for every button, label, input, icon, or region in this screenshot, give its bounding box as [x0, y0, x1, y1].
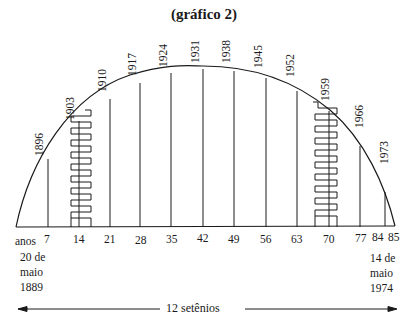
start-date-note: 20 de maio 1889 [20, 250, 45, 295]
end-date-note: 14 de maio 1974 [370, 251, 395, 296]
start-note-line: 20 de [20, 250, 45, 265]
end-note-line: 1974 [370, 281, 395, 296]
zigzag-age-70 [313, 102, 337, 227]
tick-label: 77 [355, 233, 367, 245]
tick-label: 70 [323, 234, 335, 246]
tick-label: 85 [388, 232, 400, 244]
year-label: 1917 [127, 53, 139, 76]
year-label: 1931 [190, 40, 202, 63]
tick-label: 42 [197, 233, 209, 245]
year-label: 1896 [34, 133, 46, 156]
baseline [16, 226, 395, 227]
zigzag-age-14 [71, 110, 91, 227]
year-label: 1959 [320, 78, 332, 101]
year-label: 1910 [97, 69, 109, 92]
end-note-line: maio [370, 266, 395, 281]
life-arc-diagram: (gráfico 2) [0, 0, 408, 326]
end-note-line: 14 de [370, 251, 395, 266]
tick-label: 63 [291, 234, 303, 246]
tick-label: 56 [260, 234, 272, 246]
span-label: 12 setênios [164, 301, 222, 316]
tick-label: 28 [135, 235, 147, 247]
year-label: 1924 [158, 44, 170, 67]
arc-drawing [0, 0, 408, 326]
year-label: 1938 [221, 40, 233, 63]
tick-label: 84 [372, 232, 384, 244]
tick-label: 49 [228, 234, 240, 246]
year-label: 1903 [65, 97, 77, 120]
tick-label: 14 [73, 234, 85, 246]
start-note-line: maio [20, 265, 45, 280]
tick-label: 7 [44, 234, 50, 246]
year-label: 1945 [253, 45, 265, 68]
start-note-line: 1889 [20, 280, 45, 295]
axis-unit-label: anos [15, 236, 36, 248]
year-label: 1973 [379, 141, 391, 164]
tick-label: 35 [166, 234, 178, 246]
tick-label: 21 [104, 234, 116, 246]
year-label: 1966 [354, 105, 366, 128]
year-label: 1952 [285, 54, 297, 77]
age-lines [48, 69, 385, 227]
